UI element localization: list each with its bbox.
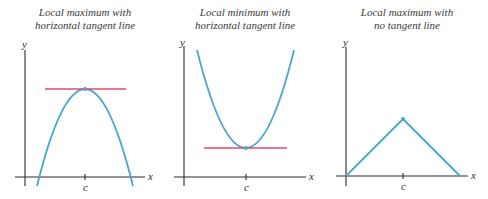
panel-1-y-label: y <box>21 38 27 50</box>
panel-1-c-label: c <box>83 181 88 193</box>
panel-1-x-label: x <box>147 170 153 182</box>
panel-2-parabola-curve <box>197 50 294 148</box>
panel-1-local-maximum: y x c <box>15 38 153 193</box>
panel-1-parabola-curve <box>37 89 133 186</box>
panel-2-x-label: x <box>308 170 314 182</box>
panel-1-maximum-point <box>83 87 87 91</box>
panel-2-local-minimum: y x c <box>174 36 314 193</box>
panel-2-minimum-point <box>244 146 248 150</box>
panel-3-maximum-point <box>401 117 405 121</box>
panel-3-y-label: y <box>342 36 348 48</box>
panel-3-local-maximum-corner: y x c <box>336 36 476 192</box>
panel-3-c-label: c <box>401 180 406 192</box>
panel-2-c-label: c <box>244 181 249 193</box>
panel-2-y-label: y <box>179 36 185 48</box>
critical-points-figure: y x c y x c y x c <box>0 0 488 199</box>
panel-3-corner-curve <box>346 119 460 176</box>
panel-3-x-label: x <box>470 169 476 181</box>
